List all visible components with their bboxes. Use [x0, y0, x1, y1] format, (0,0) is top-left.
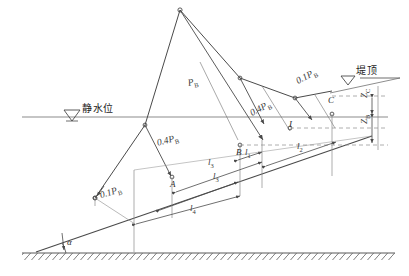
- dimension-chain-l3: [176, 162, 262, 192]
- dimension-label-l3-sub: 3: [216, 176, 219, 183]
- diagram-canvas: 静水位 堤顶 PB 0.4PB 0.1PB 0.4PB 0.1PB A B I …: [0, 0, 409, 276]
- slope-angle-label: α: [67, 238, 72, 247]
- crest-level-label: 堤顶: [356, 66, 377, 76]
- still-water-level-label: 静水位: [82, 104, 114, 114]
- height-label-zb-text: Z: [359, 119, 369, 124]
- pressure-diagram-outline: [95, 10, 332, 198]
- height-label-zc-text: Z: [359, 93, 369, 98]
- height-label-zb-sub: B: [364, 115, 371, 119]
- height-label-zc-sub: C: [364, 89, 371, 93]
- dimension-label-l1-sub: 1: [248, 152, 251, 159]
- dimension-label-l4: l4: [190, 204, 196, 215]
- dimension-label-outer-sub: 3: [211, 162, 214, 169]
- height-label-zb: ZB: [360, 115, 371, 124]
- point-label-b: B: [236, 148, 242, 157]
- force-label-p-b: PB: [187, 77, 199, 90]
- dimension-label-l3: l3: [213, 172, 219, 183]
- still-water-level-marker-icon: [64, 110, 80, 121]
- point-label-c: C: [328, 96, 334, 105]
- dimension-label-l2-sub: 2: [300, 146, 303, 153]
- point-label-i: I: [289, 120, 292, 129]
- dimension-label-l2: l2: [297, 142, 303, 153]
- height-label-zc: ZC: [360, 89, 371, 98]
- diagram-svg: [0, 0, 409, 276]
- crest-level-marker-icon: [341, 76, 355, 85]
- force-vector-p-b: [180, 10, 263, 140]
- dimension-label-outer: l3: [208, 158, 214, 169]
- dimension-label-l1: l1: [245, 148, 251, 159]
- point-label-a: A: [170, 180, 176, 189]
- dimension-guide-lines: [95, 136, 372, 224]
- ground-line: [22, 253, 395, 260]
- dimension-label-l4-sub: 4: [193, 208, 196, 215]
